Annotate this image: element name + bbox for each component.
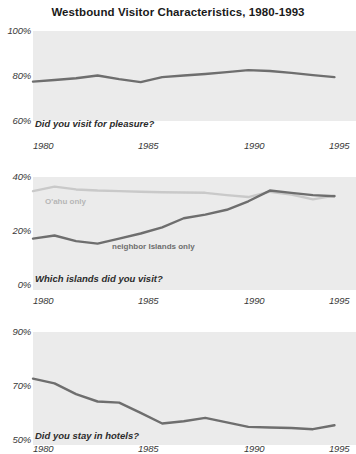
panel-hotels: 90% 70% 50% Did you stay in hotels? 1980… <box>0 310 356 454</box>
panel-islands: 40% 20% 0% O'ahu only neighbor Islands o… <box>0 155 356 310</box>
series-label-neighbor: neighbor Islands only <box>112 242 195 251</box>
caption-islands: Which islands did you visit? <box>35 273 163 284</box>
xtick-pleasure-0: 1980 <box>33 140 53 151</box>
ytick-islands-2: 0% <box>0 279 31 290</box>
ytick-hotels-1: 70% <box>0 380 31 391</box>
series-line-visited-for-pleasure <box>33 70 334 82</box>
xtick-hotels-3: 1995 <box>329 443 349 454</box>
ytick-pleasure-1: 80% <box>0 70 31 81</box>
caption-hotels: Did you stay in hotels? <box>35 430 139 441</box>
xtick-pleasure-2: 1990 <box>244 140 264 151</box>
ytick-hotels-0: 90% <box>0 326 31 337</box>
ytick-islands-1: 20% <box>0 225 31 236</box>
xtick-islands-3: 1995 <box>329 295 349 306</box>
ytick-islands-0: 40% <box>0 171 31 182</box>
xtick-hotels-2: 1990 <box>244 443 264 454</box>
xtick-islands-1: 1985 <box>138 295 158 306</box>
series-layer-pleasure <box>0 0 356 155</box>
series-label-oahu: O'ahu only <box>45 197 86 206</box>
series-layer-islands <box>0 155 356 310</box>
ytick-pleasure-2: 60% <box>0 115 31 126</box>
ytick-pleasure-0: 100% <box>0 25 31 36</box>
panel-pleasure: 100% 80% 60% Did you visit for pleasure?… <box>0 0 356 155</box>
xtick-hotels-0: 1980 <box>33 443 53 454</box>
xtick-hotels-1: 1985 <box>138 443 158 454</box>
xtick-pleasure-1: 1985 <box>138 140 158 151</box>
xtick-islands-2: 1990 <box>244 295 264 306</box>
xtick-islands-0: 1980 <box>33 295 53 306</box>
xtick-pleasure-3: 1995 <box>329 140 349 151</box>
series-line-stayed-in-hotels <box>33 379 334 430</box>
ytick-hotels-2: 50% <box>0 434 31 445</box>
figure-root: Westbound Visitor Characteristics, 1980-… <box>0 0 356 454</box>
caption-pleasure: Did you visit for pleasure? <box>35 118 154 129</box>
